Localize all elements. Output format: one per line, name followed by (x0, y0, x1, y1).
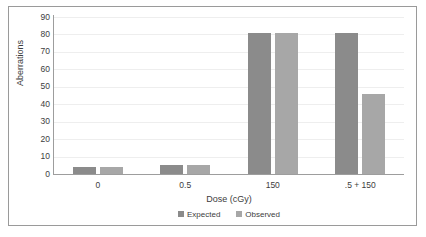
bar-observed-3 (362, 94, 385, 174)
legend-item-expected[interactable]: Expected (178, 210, 220, 219)
x-axis-tick-label: 0.5 (140, 180, 230, 190)
bar-expected-0 (73, 167, 96, 174)
gridline (54, 174, 404, 175)
bar-chart: Aberrations 0102030405060708090 00.5150.… (0, 0, 426, 237)
bar-expected-3 (335, 33, 358, 174)
legend-label: Expected (187, 210, 220, 219)
legend-item-observed[interactable]: Observed (236, 210, 280, 219)
figure: Aberrations 0102030405060708090 00.5150.… (0, 0, 426, 237)
x-axis-tick-label: 0 (53, 180, 143, 190)
y-axis-tick-label: 90 (24, 13, 50, 22)
x-axis-title: Dose (cGy) (54, 194, 404, 204)
bar-observed-2 (275, 33, 298, 174)
y-axis-tick-label: 60 (24, 65, 50, 74)
x-axis-tick-label: .5 + 150 (315, 180, 405, 190)
y-axis-tick-label: 70 (24, 47, 50, 56)
y-axis-tick-label: 20 (24, 135, 50, 144)
y-axis-tick-label: 30 (24, 117, 50, 126)
y-axis-title: Aberrations (13, 13, 27, 113)
y-axis-tick-label: 40 (24, 100, 50, 109)
bar-expected-2 (248, 33, 271, 174)
y-axis-tick-label: 80 (24, 30, 50, 39)
bar-expected-1 (160, 165, 183, 174)
y-axis-tick-label: 0 (24, 170, 50, 179)
plot-area (54, 17, 404, 174)
y-axis-tick-label: 10 (24, 152, 50, 161)
gridline (54, 17, 404, 18)
x-axis-tick-label: 150 (228, 180, 318, 190)
legend-swatch-icon (236, 211, 242, 217)
legend-swatch-icon (178, 211, 184, 217)
y-axis-tick-label: 50 (24, 82, 50, 91)
bar-observed-0 (100, 167, 123, 174)
bar-observed-1 (187, 165, 210, 174)
legend-label: Observed (245, 210, 280, 219)
chart-legend: ExpectedObserved (54, 208, 404, 220)
